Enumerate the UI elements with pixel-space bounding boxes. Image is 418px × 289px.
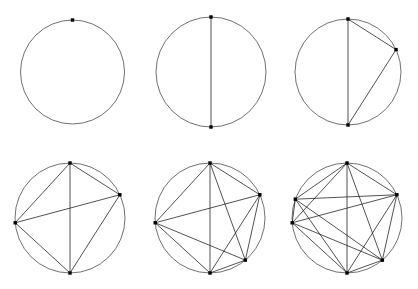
circle-panel-4 [14, 161, 125, 274]
circle-chords-figure [0, 0, 418, 289]
chord-line [347, 163, 397, 195]
vertex-point [154, 221, 157, 224]
vertex-point [68, 161, 71, 164]
circle-panel-3 [295, 17, 401, 126]
circle-panel-2 [156, 15, 266, 128]
chord-line [347, 260, 382, 273]
vertex-point [118, 193, 121, 196]
vertex-point [68, 271, 71, 274]
vertex-point [394, 48, 397, 51]
vertex-point [209, 15, 212, 18]
chord-line [15, 195, 120, 223]
vertex-point [209, 125, 212, 128]
chord-line [292, 163, 347, 223]
vertex-point [345, 161, 348, 164]
chord-line [382, 195, 396, 260]
vertex-point [294, 197, 297, 200]
vertex-point [346, 123, 349, 126]
chord-line [15, 163, 70, 223]
figure-canvas [0, 0, 418, 289]
vertex-point [71, 18, 74, 21]
circle-outline [21, 20, 125, 124]
chord-line [70, 163, 120, 195]
vertex-point [381, 258, 384, 261]
vertex-point [14, 221, 17, 224]
chord-line [245, 195, 259, 260]
chord-line [348, 19, 396, 50]
chord-line [348, 50, 396, 125]
circle-panel-6 [291, 161, 402, 274]
vertex-point [345, 271, 348, 274]
chord-line [155, 195, 260, 223]
vertex-point [208, 161, 211, 164]
vertex-point [291, 221, 294, 224]
chord-line [210, 163, 260, 195]
chord-line [155, 163, 210, 223]
vertex-point [208, 271, 211, 274]
vertex-point [395, 193, 398, 196]
circle-panel-1 [21, 18, 125, 124]
vertex-point [244, 258, 247, 261]
vertex-point [258, 193, 261, 196]
vertex-point [346, 17, 349, 20]
chord-line [295, 163, 347, 199]
chord-line [210, 260, 245, 273]
circle-panel-5 [154, 161, 265, 274]
